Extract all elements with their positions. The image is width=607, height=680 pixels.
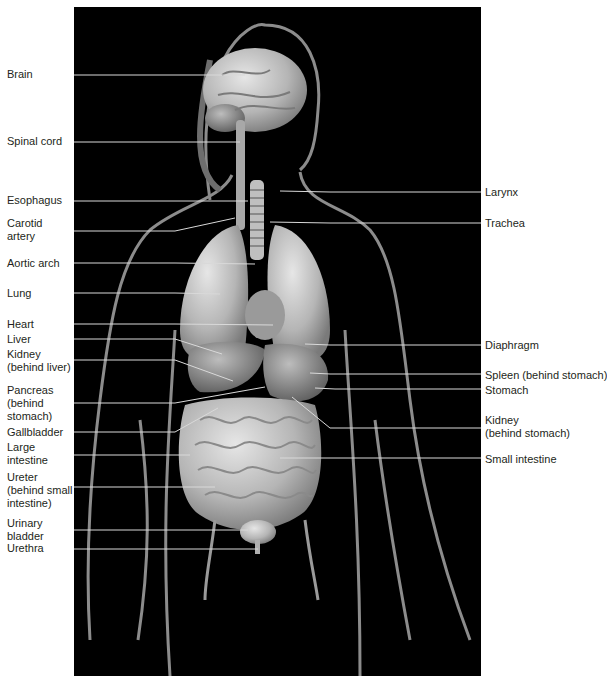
leader-line [270,222,481,223]
label-line: Brain [7,68,33,81]
label-larynx: Larynx [485,186,518,199]
label-line: Kidney [7,348,71,361]
label-esophagus: Esophagus [7,194,62,207]
leader-line [310,373,481,374]
label-line: Heart [7,318,34,331]
label-lung: Lung [7,287,31,300]
label-line: Urethra [7,542,44,555]
label-line: Stomach [485,384,528,397]
leader-line [305,344,481,345]
label-kidney-behind-liver: Kidney(behind liver) [7,348,71,374]
right-lung-shape [268,225,331,362]
label-trachea: Trachea [485,217,525,230]
label-line: Kidney [485,414,570,427]
label-line: (behind stomach) [485,427,570,440]
label-line: (behind liver) [7,361,71,374]
label-aortic-arch: Aortic arch [7,257,60,270]
label-line: Spinal cord [7,135,62,148]
label-line: stomach) [7,410,53,423]
label-line: (behind small [7,484,72,497]
label-line: artery [7,230,42,243]
label-line: Pancreas [7,384,53,397]
label-line: Spleen (behind stomach) [485,369,607,382]
label-urethra: Urethra [7,542,44,555]
label-stomach: Stomach [485,384,528,397]
label-liver: Liver [7,333,31,346]
label-line: Liver [7,333,31,346]
label-line: Urinary [7,517,44,530]
label-line: Gallbladder [7,426,63,439]
label-line: Trachea [485,217,525,230]
liver-shape [188,342,265,393]
label-carotid-artery: Carotidartery [7,217,42,243]
label-line: Lung [7,287,31,300]
label-gallbladder: Gallbladder [7,426,63,439]
label-line: Carotid [7,217,42,230]
label-line: intestine) [7,497,72,510]
label-urinary-bladder: Urinarybladder [7,517,44,543]
left-lung-shape [180,225,248,360]
label-line: Aortic arch [7,257,60,270]
label-line: Ureter [7,471,72,484]
spinal-cord-shape [236,120,245,230]
leader-line [280,191,481,192]
leader-line [74,218,235,231]
label-brain: Brain [7,68,33,81]
label-pancreas-behind-stomach: Pancreas(behindstomach) [7,384,53,423]
label-diaphragm: Diaphragm [485,339,539,352]
label-line: (behind [7,397,53,410]
leader-line [292,397,481,428]
heart-shape [245,290,285,340]
trachea-shape [250,180,264,260]
label-line: Large [7,441,48,454]
label-spinal-cord: Spinal cord [7,135,62,148]
label-ureter-behind-small-intestine: Ureter(behind smallintestine) [7,471,72,510]
label-line: Small intestine [485,453,557,466]
leader-line [74,293,220,294]
label-line: Esophagus [7,194,62,207]
label-heart: Heart [7,318,34,331]
label-line: Diaphragm [485,339,539,352]
leader-line [315,388,481,389]
label-kidney-behind-stomach: Kidney(behind stomach) [485,414,570,440]
label-small-intestine: Small intestine [485,453,557,466]
label-line: Larynx [485,186,518,199]
label-line: intestine [7,454,48,467]
label-large-intestine: Largeintestine [7,441,48,467]
label-spleen-behind-stomach: Spleen (behind stomach) [485,369,607,382]
